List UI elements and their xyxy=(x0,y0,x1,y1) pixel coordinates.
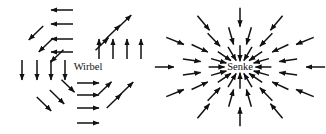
vector-field-figure: Wirbel Senke xyxy=(0,0,326,134)
vector-field-canvas: Wirbel Senke xyxy=(0,0,326,134)
senke-label: Senke xyxy=(227,61,253,72)
wirbel-label: Wirbel xyxy=(74,61,103,72)
